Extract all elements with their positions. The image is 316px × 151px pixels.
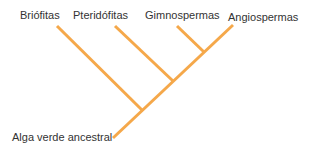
taxon-label-briofitas: Briófitas <box>20 9 60 21</box>
root-label: Alga verde ancestral <box>12 131 112 143</box>
branch-gimnospermas <box>177 26 204 52</box>
cladogram: Briófitas Pteridófitas Gimnospermas Angi… <box>0 0 316 151</box>
branch-pteridofitas <box>115 26 173 81</box>
taxon-label-angiospermas: Angiospermas <box>228 11 298 23</box>
taxon-label-pteridofitas: Pteridófitas <box>73 9 128 21</box>
taxon-label-gimnospermas: Gimnospermas <box>145 9 220 21</box>
